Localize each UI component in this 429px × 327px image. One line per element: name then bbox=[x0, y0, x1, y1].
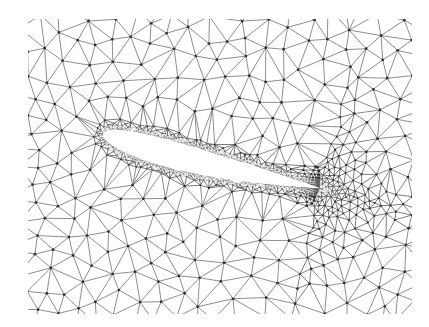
mesh-overlay-svg bbox=[0, 0, 429, 327]
airfoil-mesh-figure: Unstructured triangular mesh around an a… bbox=[0, 0, 429, 327]
